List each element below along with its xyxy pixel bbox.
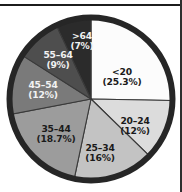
pie-chart-svg xyxy=(0,8,182,190)
top-horizontal-rule xyxy=(0,4,182,6)
pie-chart-figure: <20 (25.3%) 20–24 (12%) 25–34 (16%) 35–4… xyxy=(0,8,182,190)
